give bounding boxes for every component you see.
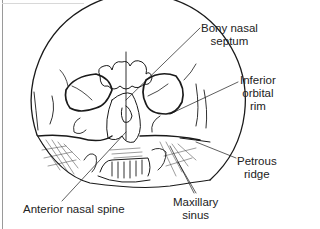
leader-maxillary-sinus-2 (178, 162, 196, 193)
label-bony-nasal-septum: Bony nasal septum (201, 22, 258, 48)
leader-inferior-orbital-rim (170, 82, 238, 114)
label-line: Petrous (237, 155, 277, 168)
label-line: Anterior nasal spine (23, 203, 125, 216)
label-maxillary-sinus: Maxillary sinus (173, 196, 218, 222)
label-line: Maxillary (173, 196, 218, 209)
left-orbit (66, 74, 113, 111)
label-petrous-ridge: Petrous ridge (237, 155, 277, 181)
label-line: Inferior (240, 74, 276, 87)
leader-bony-nasal-septum (126, 28, 200, 100)
label-line: Bony nasal (201, 22, 258, 35)
leader-anterior-nasal-spine (62, 132, 126, 201)
petrous-ridge-left (38, 135, 112, 140)
label-anterior-nasal-spine: Anterior nasal spine (23, 203, 125, 216)
upper-teeth (100, 158, 150, 176)
right-orbit (143, 74, 183, 114)
label-line: rim (240, 100, 276, 113)
label-line: ridge (237, 168, 277, 181)
label-line: orbital (240, 87, 276, 100)
label-inferior-orbital-rim: Inferior orbital rim (240, 74, 276, 113)
label-line: sinus (173, 209, 218, 222)
leader-petrous-ridge (196, 142, 236, 158)
label-line: septum (201, 35, 258, 48)
